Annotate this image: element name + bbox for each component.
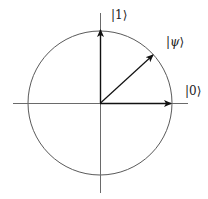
ket-1-angle: ⟩ xyxy=(123,8,128,22)
ket-0-angle: ⟩ xyxy=(197,84,202,98)
ket-0-label: |0⟩ xyxy=(185,85,201,97)
ket-psi-angle: ⟩ xyxy=(179,35,184,49)
ket-1-body: 1 xyxy=(115,8,123,22)
qubit-diagram xyxy=(0,0,208,199)
ket-0-body: 0 xyxy=(189,84,197,98)
ket-psi-label: |ψ⟩ xyxy=(166,36,184,48)
ket-psi-vector xyxy=(101,55,154,103)
ket-1-label: |1⟩ xyxy=(111,9,127,21)
